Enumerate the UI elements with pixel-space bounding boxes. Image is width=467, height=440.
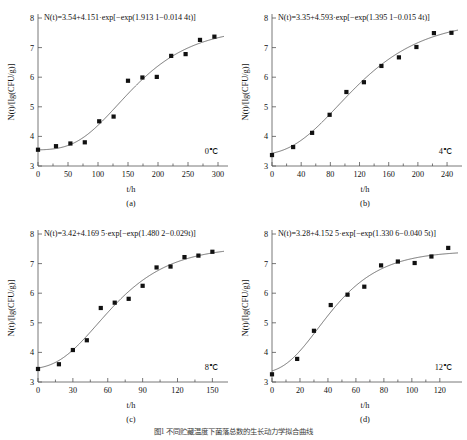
data-point (112, 114, 116, 118)
data-point (270, 153, 274, 157)
subplot-label: (c) (126, 415, 136, 424)
equation-annotation: N(t)=3.28+4.152 5·exp[−exp(1.330 6−0.040… (278, 229, 436, 238)
subplot-label: (d) (360, 415, 370, 424)
data-point (168, 264, 172, 268)
svg-text:8: 8 (264, 230, 268, 239)
data-point (85, 338, 89, 342)
data-point (432, 31, 436, 35)
subplot-a-canvas: 345678050100150200250300N(t)=3.54+4.151·… (0, 0, 233, 215)
svg-text:6: 6 (264, 73, 268, 82)
plot-a: 345678050100150200250300N(t)=3.54+4.151·… (7, 13, 228, 208)
data-point (127, 297, 131, 301)
svg-text:80: 80 (380, 386, 388, 395)
data-point (113, 301, 117, 305)
svg-text:100: 100 (406, 386, 418, 395)
data-point (155, 75, 159, 79)
data-point (379, 263, 383, 267)
svg-text:200: 200 (152, 170, 164, 179)
subplot-c: 3456780306090120150N(t)=3.42+4.169 5·exp… (0, 216, 233, 431)
plot-c: 3456780306090120150N(t)=3.42+4.169 5·exp… (7, 229, 228, 424)
subplot-d: 345678020406080100120N(t)=3.28+4.152 5·e… (234, 216, 467, 431)
subplot-a: 345678050100150200250300N(t)=3.54+4.151·… (0, 0, 233, 215)
svg-text:6: 6 (264, 289, 268, 298)
equation-annotation: N(t)=3.54+4.151·exp[−exp(1.913 1−0.014 4… (44, 13, 196, 22)
svg-text:5: 5 (264, 103, 268, 112)
subplot-label: (b) (360, 199, 370, 208)
figure-caption: 图1 不同贮藏温度下菌落总数的生长动力学拟合曲线 (0, 425, 467, 436)
y-axis-label: N(t)/[lg(CFU/g)] (7, 279, 16, 336)
svg-text:4: 4 (30, 348, 34, 357)
data-point (71, 348, 75, 352)
data-point (362, 285, 366, 289)
data-point (379, 64, 383, 68)
data-point (295, 357, 299, 361)
svg-text:0: 0 (36, 170, 40, 179)
data-point (184, 52, 188, 56)
data-point (329, 303, 333, 307)
svg-text:300: 300 (212, 170, 224, 179)
data-point (169, 54, 173, 58)
plot-b: 34567804080120160200240N(t)=3.35+4.593·e… (241, 13, 462, 208)
temperature-label: 4℃ (439, 147, 452, 156)
data-point (344, 90, 348, 94)
data-point (99, 306, 103, 310)
svg-text:60: 60 (104, 386, 112, 395)
plot-d: 345678020406080100120N(t)=3.28+4.152 5·e… (241, 229, 462, 424)
x-axis-label: t/h (127, 401, 137, 410)
equation-annotation: N(t)=3.42+4.169 5·exp[−exp(1.480 2−0.029… (44, 229, 196, 238)
svg-text:5: 5 (30, 103, 34, 112)
data-point (449, 31, 453, 35)
svg-text:4: 4 (264, 348, 268, 357)
data-point (36, 148, 40, 152)
data-point (196, 254, 200, 258)
subplot-d-canvas: 345678020406080100120N(t)=3.28+4.152 5·e… (234, 216, 467, 431)
svg-text:7: 7 (264, 44, 268, 53)
svg-text:50: 50 (64, 170, 72, 179)
svg-text:150: 150 (122, 170, 134, 179)
svg-text:0: 0 (270, 170, 274, 179)
equation-annotation: N(t)=3.35+4.593·exp[−exp(1.395 1−0.015 4… (278, 13, 430, 22)
data-point (210, 250, 214, 254)
y-axis-label: N(t)/[lg(CFU/g)] (241, 63, 250, 120)
svg-text:30: 30 (69, 386, 77, 395)
svg-text:160: 160 (383, 170, 395, 179)
data-point (36, 367, 40, 371)
svg-text:3: 3 (30, 162, 34, 171)
svg-text:4: 4 (30, 132, 34, 141)
data-point (396, 259, 400, 263)
svg-text:6: 6 (30, 289, 34, 298)
svg-text:250: 250 (182, 170, 194, 179)
svg-text:3: 3 (30, 378, 34, 387)
data-point (362, 80, 366, 84)
data-point (140, 75, 144, 79)
svg-text:4: 4 (264, 132, 268, 141)
svg-text:40: 40 (297, 170, 305, 179)
temperature-label: 0℃ (205, 147, 218, 156)
svg-text:3: 3 (264, 378, 268, 387)
data-point (198, 38, 202, 42)
svg-text:5: 5 (30, 319, 34, 328)
subplot-b-canvas: 34567804080120160200240N(t)=3.35+4.593·e… (234, 0, 467, 215)
x-axis-label: t/h (361, 185, 371, 194)
x-axis-label: t/h (361, 401, 371, 410)
y-axis-label: N(t)/[lg(CFU/g)] (7, 63, 16, 120)
svg-text:0: 0 (270, 386, 274, 395)
data-point (446, 246, 450, 250)
svg-text:100: 100 (92, 170, 104, 179)
temperature-label: 8℃ (205, 363, 218, 372)
svg-text:120: 120 (353, 170, 365, 179)
svg-text:80: 80 (326, 170, 334, 179)
svg-text:7: 7 (30, 260, 34, 269)
subplot-b: 34567804080120160200240N(t)=3.35+4.593·e… (234, 0, 467, 215)
svg-text:200: 200 (412, 170, 424, 179)
x-axis-label: t/h (127, 185, 137, 194)
figure-container: 345678050100150200250300N(t)=3.54+4.151·… (0, 0, 467, 440)
data-point (270, 372, 274, 376)
subplot-label: (a) (126, 199, 136, 208)
data-point (97, 119, 101, 123)
data-point (83, 140, 87, 144)
data-point (57, 362, 61, 366)
data-point (291, 145, 295, 149)
svg-text:40: 40 (324, 386, 332, 395)
temperature-label: 12℃ (435, 363, 452, 372)
